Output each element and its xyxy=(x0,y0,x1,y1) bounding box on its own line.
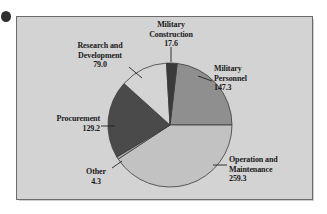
screenshot-canvas: Military Construction 17.6 Research and … xyxy=(0,0,327,214)
label-line1: Procurement xyxy=(57,114,100,123)
pie-label-operation-maintenance: Operation and Maintenance 259.3 xyxy=(229,155,311,184)
label-value: 129.2 xyxy=(22,124,100,134)
pie-label-military-construction: Military Construction 17.6 xyxy=(134,20,208,49)
label-value: 79.0 xyxy=(60,60,140,70)
label-line1: Other xyxy=(86,167,106,176)
label-line2: Development xyxy=(78,51,122,60)
label-value: 17.6 xyxy=(134,39,208,49)
pie-label-other: Other 4.3 xyxy=(72,167,120,186)
label-line1: Military xyxy=(157,20,185,29)
label-value: 259.3 xyxy=(229,174,311,184)
label-line1: Research and xyxy=(77,41,122,50)
pie-label-research-development: Research and Development 79.0 xyxy=(60,41,140,70)
pie-label-military-personnel: Military Personnel 147.3 xyxy=(214,64,284,93)
label-line1: Operation and xyxy=(229,155,278,164)
pie-label-procurement: Procurement 129.2 xyxy=(22,114,100,133)
label-line2: Personnel xyxy=(214,74,247,83)
label-line1: Military xyxy=(214,64,242,73)
label-value: 147.3 xyxy=(214,83,284,93)
label-line2: Construction xyxy=(149,30,193,39)
label-value: 4.3 xyxy=(72,177,120,187)
label-line2: Maintenance xyxy=(229,165,272,174)
